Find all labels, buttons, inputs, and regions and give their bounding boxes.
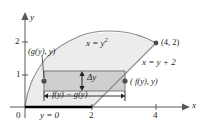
parabola-exponent: 2 bbox=[105, 36, 108, 43]
left-point-marker bbox=[41, 78, 46, 83]
x-tick-label-2: 2 bbox=[89, 111, 94, 120]
right-point-label: ( f(y), y) bbox=[130, 77, 158, 86]
right-point-marker bbox=[122, 78, 127, 83]
delta-y-label: Δy bbox=[87, 73, 96, 82]
width-label: f(y) − g(y) bbox=[52, 90, 87, 99]
y-tick-label-2: 2 bbox=[15, 37, 20, 46]
baseline-equation-label: y = 0 bbox=[40, 111, 59, 120]
width-arrowhead-right bbox=[121, 93, 125, 98]
parabola-equation-text: x = y bbox=[86, 38, 105, 48]
math-figure: y x 2 1 0 2 4 y = 0 x = y2 x = y + 2 (g(… bbox=[0, 0, 202, 128]
x-axis-arrowhead bbox=[182, 103, 190, 110]
y-tick-label-1: 1 bbox=[16, 70, 21, 79]
x-axis-label: x bbox=[192, 101, 196, 110]
y-axis-label: y bbox=[30, 13, 34, 22]
origin-label: 0 bbox=[16, 111, 21, 120]
x-tick-label-4: 4 bbox=[153, 111, 158, 120]
left-point-label: (g(y), y) bbox=[28, 47, 55, 56]
intersection-point-marker bbox=[154, 41, 159, 46]
parabola-equation-label: x = y2 bbox=[86, 37, 108, 48]
y-axis-arrowhead bbox=[21, 12, 28, 20]
line-equation-label: x = y + 2 bbox=[142, 58, 176, 67]
intersection-point-label: (4, 2) bbox=[161, 38, 179, 47]
representative-rectangle bbox=[44, 71, 125, 91]
